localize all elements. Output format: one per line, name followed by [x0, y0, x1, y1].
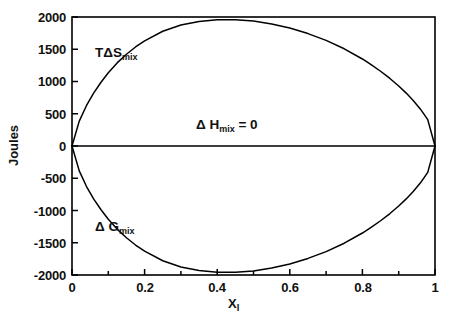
dg-mix-label-subscript: mix [119, 226, 135, 236]
plot-canvas [0, 0, 460, 320]
dh-mix-label: Δ Hmix = 0 [196, 117, 258, 132]
ytick-label-n1000: -1000 [8, 204, 66, 219]
ytick-label-2000: 2000 [8, 10, 66, 25]
y-axis-title: Joules [6, 115, 21, 177]
x-axis-title-subscript: l [237, 302, 240, 313]
tds-mix-label: TΔSmix [95, 45, 137, 60]
xtick-label-0p2: 0.2 [125, 280, 165, 295]
dh-mix-label-text: Δ H [196, 117, 219, 132]
ytick-label-n1500: -1500 [8, 236, 66, 251]
x-axis-title-text: X [228, 296, 237, 311]
x-axis-title: Xl [228, 296, 239, 311]
xtick-label-0p4: 0.4 [197, 280, 237, 295]
xtick-label-0: 0 [52, 280, 92, 295]
dg-mix-label: Δ Gmix [95, 219, 134, 234]
ytick-label-1500: 1500 [8, 42, 66, 57]
xtick-label-0p6: 0.6 [270, 280, 310, 295]
ytick-label-1000: 1000 [8, 74, 66, 89]
xtick-label-0p8: 0.8 [343, 280, 383, 295]
dg-mix-label-text: Δ G [95, 219, 119, 234]
tds-mix-label-text: TΔS [95, 45, 122, 60]
series-curve-1 [72, 146, 435, 272]
chart-figure: 2000 1500 1000 500 0 -500 -1000 -1500 -2… [0, 0, 460, 320]
dh-mix-label-subscript: mix [219, 124, 235, 134]
xtick-label-1: 1 [415, 280, 455, 295]
tds-mix-label-subscript: mix [122, 52, 138, 62]
dh-mix-label-suffix: = 0 [235, 117, 258, 132]
